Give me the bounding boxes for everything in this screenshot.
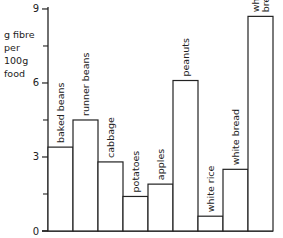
y-tick-label: 9	[33, 3, 39, 14]
y-tick-label: 6	[33, 77, 39, 88]
bar	[248, 16, 273, 231]
bar	[48, 147, 73, 231]
bar-label: peanuts	[180, 38, 191, 76]
bar-label: potatoes	[130, 151, 141, 193]
bar-label: runner beans	[80, 53, 91, 116]
bar-label: bread	[260, 0, 271, 12]
bar-label: apples	[155, 149, 166, 180]
y-tick-label: 0	[33, 226, 39, 237]
bar	[73, 120, 98, 231]
bar	[98, 162, 123, 231]
y-tick-label: 3	[33, 151, 39, 162]
bar-label: baked beans	[55, 82, 66, 143]
bar	[198, 216, 223, 231]
bar-label: white rice	[205, 165, 216, 212]
bar-chart: 0369baked beansrunner beanscabbagepotato…	[0, 0, 283, 238]
bar	[123, 196, 148, 231]
bar	[223, 169, 248, 231]
bar	[173, 81, 198, 231]
bar-label: white bread	[230, 109, 241, 165]
bar-label: cabbage	[105, 117, 116, 158]
bar	[148, 184, 173, 231]
